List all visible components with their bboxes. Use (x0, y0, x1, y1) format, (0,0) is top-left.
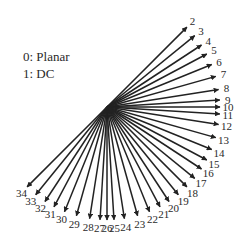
mode-arrow-32 (45, 107, 107, 202)
arrow-group: 2345678910111213141516171819202122232425… (16, 15, 234, 234)
mode-label-34: 34 (16, 187, 28, 199)
mode-label-27: 27 (94, 222, 106, 234)
direction-arrows: 2345678910111213141516171819202122232425… (0, 0, 248, 245)
mode-label-3: 3 (198, 25, 204, 37)
mode-arrow-11 (107, 107, 220, 114)
mode-arrow-22 (107, 107, 150, 212)
mode-arrow-14 (107, 107, 212, 150)
mode-label-30: 30 (56, 213, 68, 225)
mode-arrow-33 (36, 107, 107, 195)
mode-arrow-17 (107, 107, 195, 178)
mode-arrow-27 (100, 107, 107, 220)
intra-mode-diagram: 0: Planar 1: DC 234567891011121314151617… (0, 0, 248, 245)
mode-label-33: 33 (25, 195, 37, 207)
mode-label-24: 24 (120, 221, 132, 233)
mode-label-11: 11 (223, 109, 234, 121)
mode-label-2: 2 (190, 15, 196, 27)
mode-arrow-4 (107, 45, 202, 107)
mode-arrow-3 (107, 36, 195, 107)
mode-label-22: 22 (147, 213, 158, 225)
mode-label-14: 14 (214, 147, 226, 159)
mode-label-28: 28 (83, 221, 95, 233)
mode-arrow-30 (65, 107, 108, 212)
mode-label-13: 13 (218, 134, 230, 146)
mode-label-8: 8 (224, 82, 230, 94)
mode-label-18: 18 (187, 187, 199, 199)
mode-arrow-9 (107, 100, 220, 107)
mode-label-21: 21 (158, 208, 169, 220)
mode-label-20: 20 (168, 202, 180, 214)
mode-label-6: 6 (216, 56, 222, 68)
mode-label-32: 32 (35, 202, 46, 214)
mode-label-12: 12 (221, 120, 232, 132)
mode-label-23: 23 (134, 218, 146, 230)
mode-arrow-6 (107, 65, 212, 108)
mode-label-7: 7 (221, 68, 227, 80)
mode-label-31: 31 (45, 208, 56, 220)
mode-label-29: 29 (69, 218, 81, 230)
mode-arrow-25 (107, 107, 114, 220)
mode-arrow-19 (107, 107, 178, 195)
mode-label-5: 5 (211, 44, 217, 56)
mode-label-19: 19 (178, 195, 190, 207)
